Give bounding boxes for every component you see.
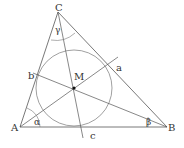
label-vertex-c: C <box>55 2 63 13</box>
label-vertex-b: B <box>168 122 175 133</box>
label-angle-beta: β <box>146 117 151 127</box>
label-angle-alpha: α <box>34 117 40 127</box>
label-tangent-a: a <box>116 62 122 73</box>
incircle-diagram: A B C M a b c α β γ <box>0 0 184 148</box>
label-tangent-c: c <box>90 130 96 141</box>
label-incenter: M <box>74 71 84 82</box>
label-tangent-b: b <box>28 70 34 81</box>
label-angle-gamma: γ <box>55 25 60 35</box>
triangle-abc <box>20 12 167 127</box>
label-vertex-a: A <box>10 122 19 133</box>
incenter-point <box>72 86 75 89</box>
